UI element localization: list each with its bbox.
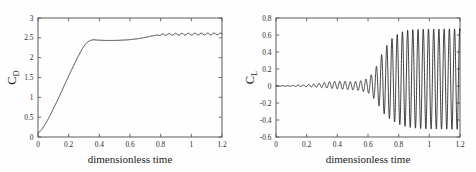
- x-tick-label: 0.2: [302, 140, 312, 149]
- x-tick-label: 0.4: [95, 140, 105, 149]
- series-curve: [38, 33, 222, 133]
- x-tick: 0.2: [302, 18, 312, 149]
- drag-coefficient-chart: 00.20.40.60.811.200.511.522.53dimensionl…: [0, 0, 238, 172]
- x-tick-label: 0: [274, 140, 278, 149]
- x-tick-label: 1: [427, 140, 431, 149]
- x-tick-label: 1: [189, 140, 193, 149]
- y-tick: -0.4: [260, 116, 460, 125]
- x-tick: 0.8: [156, 18, 166, 149]
- y-tick-label: 3: [30, 14, 34, 23]
- x-tick-label: 0.6: [363, 140, 373, 149]
- x-tick-label: 0: [36, 140, 40, 149]
- x-tick: 0.6: [125, 18, 135, 149]
- y-axis-title: CD: [5, 70, 21, 84]
- y-tick: 0.6: [262, 31, 460, 40]
- x-tick-label: 0.8: [156, 140, 166, 149]
- y-tick-label: 2: [30, 53, 34, 62]
- y-tick-label: -0.4: [260, 116, 272, 125]
- y-tick-label: 0.8: [262, 14, 272, 23]
- x-tick-label: 0.6: [125, 140, 135, 149]
- y-tick-label: -0.6: [260, 133, 272, 142]
- y-tick-label: 0.5: [24, 113, 34, 122]
- x-tick-label: 0.8: [394, 140, 404, 149]
- y-tick-label: 1: [30, 93, 34, 102]
- y-tick-label: 1.5: [24, 73, 34, 82]
- x-tick: 0.4: [95, 18, 105, 149]
- x-tick-label: 0.2: [64, 140, 74, 149]
- y-tick-label: 0.6: [262, 31, 272, 40]
- figure-root: 00.20.40.60.811.200.511.522.53dimensionl…: [0, 0, 476, 172]
- x-tick: 1: [189, 18, 193, 149]
- y-tick: 1.5: [24, 73, 222, 82]
- y-tick-label: 0: [268, 82, 272, 91]
- x-axis-title: dimensionless time: [326, 153, 411, 165]
- series-curve: [276, 29, 460, 129]
- y-tick: 0.5: [24, 113, 222, 122]
- y-tick: 0.2: [262, 65, 460, 74]
- y-tick: 0.4: [262, 48, 460, 57]
- lift-coefficient-chart: 00.20.40.60.811.2-0.6-0.4-0.200.20.40.60…: [238, 0, 476, 172]
- x-axis-title: dimensionless time: [88, 153, 173, 165]
- y-axis-title: CL: [243, 71, 259, 85]
- y-tick: 2: [30, 53, 222, 62]
- y-tick-label: -0.2: [260, 99, 272, 108]
- y-tick-label: 0: [30, 133, 34, 142]
- x-tick-label: 1.2: [217, 140, 227, 149]
- y-tick-label: 2.5: [24, 33, 34, 42]
- y-tick-label: 0.2: [262, 65, 272, 74]
- drag-coefficient-panel: 00.20.40.60.811.200.511.522.53dimensionl…: [0, 0, 238, 172]
- y-tick-label: 0.4: [262, 48, 272, 57]
- x-tick-label: 1.2: [455, 140, 465, 149]
- lift-coefficient-panel: 00.20.40.60.811.2-0.6-0.4-0.200.20.40.60…: [238, 0, 476, 172]
- x-tick-label: 0.4: [333, 140, 343, 149]
